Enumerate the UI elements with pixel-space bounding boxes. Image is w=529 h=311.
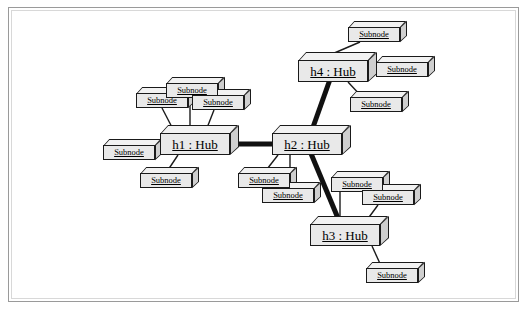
subnode-s6[interactable]: Subnode xyxy=(238,173,290,188)
hub-node-h2[interactable]: h2 : Hub xyxy=(272,133,342,155)
subnode-s5[interactable]: Subnode xyxy=(140,173,192,188)
node-front-face: Subnode xyxy=(362,190,414,205)
subnode-s7-label: Subnode xyxy=(273,191,303,200)
subnode-s6-label: Subnode xyxy=(249,176,279,185)
node-front-face: Subnode xyxy=(366,268,418,283)
link-layer xyxy=(0,0,529,311)
subnode-s8[interactable]: Subnode xyxy=(348,27,400,42)
hub-node-h1[interactable]: h1 : Hub xyxy=(160,133,230,155)
hub-node-h4[interactable]: h4 : Hub xyxy=(298,60,368,82)
subnode-s13[interactable]: Subnode xyxy=(366,268,418,283)
subnode-s8-label: Subnode xyxy=(359,30,389,39)
node-front-face: Subnode xyxy=(350,97,402,112)
node-front-face: Subnode xyxy=(262,188,314,203)
subnode-s12-label: Subnode xyxy=(373,193,403,202)
node-front-face: Subnode xyxy=(238,173,290,188)
subnode-s11-label: Subnode xyxy=(342,180,372,189)
subnode-s9-label: Subnode xyxy=(387,65,417,74)
node-front-face: h1 : Hub xyxy=(160,133,230,155)
subnode-s10-label: Subnode xyxy=(361,100,391,109)
node-front-face: h4 : Hub xyxy=(298,60,368,82)
subnode-s3[interactable]: Subnode xyxy=(192,95,244,110)
node-front-face: Subnode xyxy=(376,62,428,77)
subnode-s13-label: Subnode xyxy=(377,271,407,280)
node-front-face: Subnode xyxy=(103,145,155,160)
subnode-s7[interactable]: Subnode xyxy=(262,188,314,203)
node-front-face: Subnode xyxy=(140,173,192,188)
hub-node-h3-label: h3 : Hub xyxy=(322,229,368,242)
subnode-s10[interactable]: Subnode xyxy=(350,97,402,112)
subnode-s12[interactable]: Subnode xyxy=(362,190,414,205)
node-front-face: Subnode xyxy=(192,95,244,110)
subnode-s9[interactable]: Subnode xyxy=(376,62,428,77)
hub-node-h1-label: h1 : Hub xyxy=(172,138,218,151)
subnode-s3-label: Subnode xyxy=(203,98,233,107)
node-front-face: Subnode xyxy=(348,27,400,42)
node-front-face: h3 : Hub xyxy=(310,224,380,246)
subnode-s5-label: Subnode xyxy=(151,176,181,185)
subnode-s4-label: Subnode xyxy=(114,148,144,157)
hub-node-h2-label: h2 : Hub xyxy=(284,138,330,151)
subnode-s4[interactable]: Subnode xyxy=(103,145,155,160)
hub-node-h4-label: h4 : Hub xyxy=(310,65,356,78)
node-front-face: h2 : Hub xyxy=(272,133,342,155)
subnode-s2-label: Subnode xyxy=(177,86,207,95)
diagram-canvas: h1 : Hubh2 : Hubh3 : Hubh4 : HubSubnodeS… xyxy=(0,0,529,311)
hub-node-h3[interactable]: h3 : Hub xyxy=(310,224,380,246)
